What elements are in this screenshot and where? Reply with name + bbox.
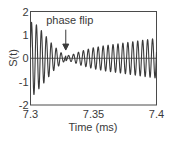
y-tick-label: 1 (22, 29, 28, 41)
x-tick-label: 7.3 (23, 108, 38, 120)
x-tick-label: 7.35 (83, 108, 104, 120)
x-tick-label: 7.4 (149, 108, 164, 120)
x-axis-ticks: 7.3 7.35 7.4 (23, 108, 164, 120)
y-tick-label: 0 (22, 52, 28, 64)
phase-flip-arrow-icon (63, 30, 69, 50)
x-axis-label: Time (ms) (68, 121, 117, 133)
phase-flip-annotation: phase flip (46, 14, 93, 26)
y-axis-ticks: 2 1 0 -1 -2 (19, 6, 29, 112)
chart: 2 1 0 -1 -2 7.3 7.35 7.4 Time (ms) S(t) … (0, 0, 170, 141)
y-axis-label: S(t) (7, 49, 19, 67)
y-tick-label: -1 (19, 76, 29, 88)
y-tick-label: 2 (22, 6, 28, 18)
